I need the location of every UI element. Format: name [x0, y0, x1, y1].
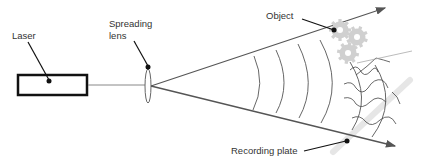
spreading-lens: [145, 69, 151, 103]
lens-label-line1: Spreading: [109, 18, 152, 30]
hologram-diagram: [0, 0, 428, 165]
lens-label-line2: lens: [109, 30, 126, 42]
object-label: Object: [266, 10, 293, 22]
reference-line: [357, 51, 412, 63]
laser-label: Laser: [12, 30, 36, 42]
laser-box: [18, 75, 87, 95]
gear-icon: [329, 19, 368, 64]
recording-plate-label: Recording plate: [231, 145, 298, 157]
